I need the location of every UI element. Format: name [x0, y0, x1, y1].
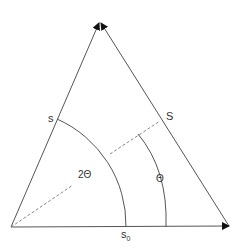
- label-s0-subscript: 0: [127, 235, 131, 242]
- label-theta: Θ: [156, 173, 164, 184]
- left-edge-arrow: [11, 23, 99, 227]
- label-two-theta: 2Θ: [78, 169, 92, 180]
- bottom-edge-arrow: [11, 226, 229, 227]
- dashed-line-to-S: [110, 121, 160, 154]
- diagram-canvas: s S 2Θ Θ s0: [0, 0, 242, 252]
- right-edge-arrow: [101, 23, 229, 226]
- arc-two-theta: [57, 119, 126, 227]
- label-s: s: [48, 112, 54, 124]
- label-S: S: [166, 110, 173, 122]
- label-s0: s0: [121, 228, 131, 242]
